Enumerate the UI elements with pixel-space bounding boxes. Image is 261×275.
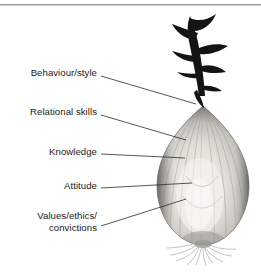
leader-lines xyxy=(0,0,261,275)
leader-line-relational-skills xyxy=(101,115,186,140)
label-attitude: Attitude xyxy=(0,180,97,192)
leader-line-behaviour-style xyxy=(101,76,196,104)
leader-line-knowledge xyxy=(101,154,185,158)
leader-line-values-ethics xyxy=(101,199,186,226)
label-relational-skills: Relational skills xyxy=(0,106,97,118)
leader-line-attitude xyxy=(101,183,192,188)
label-knowledge: Knowledge xyxy=(0,146,97,158)
label-behaviour-style: Behaviour/style xyxy=(0,67,97,79)
label-values-ethics-convictions: Values/ethics/ convictions xyxy=(0,210,97,233)
onion-competence-figure: Behaviour/style Relational skills Knowle… xyxy=(0,0,261,275)
